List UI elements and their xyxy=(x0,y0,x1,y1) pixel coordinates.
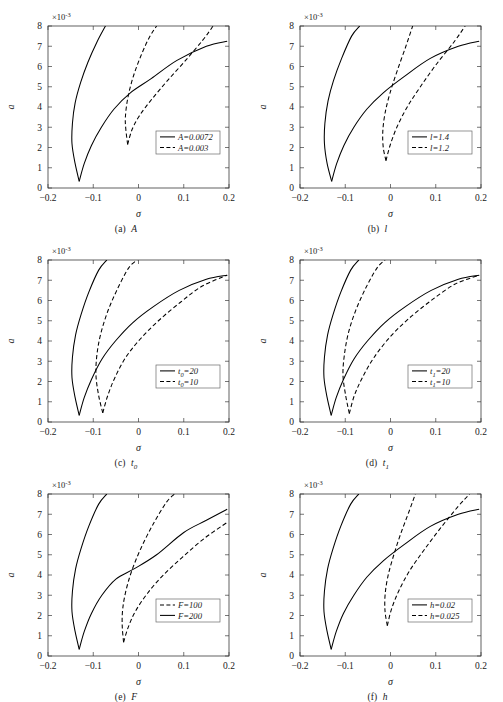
x-tick-label: −0.1 xyxy=(337,661,354,671)
y-tick-label: 7 xyxy=(289,42,294,52)
y-tick-label: 2 xyxy=(289,377,294,387)
curve-t1-20 xyxy=(331,275,479,415)
y-tick-label: 2 xyxy=(37,611,42,621)
x-tick-label: 0.2 xyxy=(223,427,235,437)
y-tick-label: 6 xyxy=(37,62,42,72)
legend-label: l=1.4 xyxy=(430,132,450,142)
y-axis-exponent: ×10-3 xyxy=(52,245,71,256)
x-tick-label: 0 xyxy=(136,661,141,671)
x-tick-label: 0.2 xyxy=(475,661,487,671)
x-tick-label: −0.2 xyxy=(39,427,56,437)
y-axis-label: a xyxy=(5,105,16,110)
legend-label: l=1.2 xyxy=(430,143,450,153)
y-tick-label: 5 xyxy=(37,550,42,560)
x-tick-label: 0 xyxy=(136,193,141,203)
curve-t1-10 xyxy=(349,275,479,413)
caption-symbol: t0 xyxy=(131,458,138,468)
panel-caption-f: (f) h xyxy=(252,692,503,702)
y-axis-label: a xyxy=(257,573,268,578)
plot-b: ×10-3012345678−0.2−0.100.10.2σal=1.4l=1.… xyxy=(252,0,503,234)
chart-panel-b: ×10-3012345678−0.2−0.100.10.2σal=1.4l=1.… xyxy=(252,0,503,234)
x-tick-label: −0.2 xyxy=(291,193,308,203)
y-axis-label: a xyxy=(257,105,268,110)
y-tick-label: 6 xyxy=(37,530,42,540)
y-tick-label: 0 xyxy=(37,651,42,661)
plot-c: ×10-3012345678−0.2−0.100.10.2σat0=20t0=1… xyxy=(0,234,252,468)
y-axis-exponent: ×10-3 xyxy=(304,11,323,22)
x-axis-label: σ xyxy=(136,442,142,453)
y-axis-exponent: ×10-3 xyxy=(52,479,71,490)
x-tick-label: 0 xyxy=(136,427,141,437)
y-tick-label: 3 xyxy=(37,123,42,133)
x-tick-label: 0 xyxy=(388,193,393,203)
y-tick-label: 0 xyxy=(289,417,294,427)
y-tick-label: 8 xyxy=(289,489,294,499)
curve-h-0-02 xyxy=(324,494,359,649)
curve-l-1-4 xyxy=(332,41,480,181)
x-tick-label: 0.2 xyxy=(475,193,487,203)
caption-index: (f) xyxy=(367,692,377,702)
y-axis-exponent: ×10-3 xyxy=(52,11,71,22)
x-tick-label: −0.2 xyxy=(39,193,56,203)
panel-caption-b: (b) l xyxy=(252,224,503,234)
y-tick-label: 3 xyxy=(289,357,294,367)
x-tick-label: −0.1 xyxy=(337,427,354,437)
y-tick-label: 7 xyxy=(37,276,42,286)
caption-symbol: l xyxy=(385,224,388,234)
curve-F-200 xyxy=(79,509,227,649)
caption-index: (a) xyxy=(115,224,126,234)
caption-index: (c) xyxy=(115,458,126,468)
y-tick-label: 3 xyxy=(37,591,42,601)
chart-panel-f: ×10-3012345678−0.2−0.100.10.2σah=0.02h=0… xyxy=(252,468,503,702)
x-tick-label: −0.2 xyxy=(291,427,308,437)
x-tick-label: 0.1 xyxy=(430,661,442,671)
chart-panel-c: ×10-3012345678−0.2−0.100.10.2σat0=20t0=1… xyxy=(0,234,252,468)
caption-index: (b) xyxy=(368,224,380,234)
legend-label: h=0.025 xyxy=(430,611,460,621)
legend-label: h=0.02 xyxy=(430,600,456,610)
y-tick-label: 8 xyxy=(289,21,294,31)
x-axis-label: σ xyxy=(388,208,394,219)
y-tick-label: 2 xyxy=(37,377,42,387)
y-axis-label: a xyxy=(5,573,16,578)
figure-panel-grid: ×10-3012345678−0.2−0.100.10.2σaA=0.0072A… xyxy=(0,0,503,702)
curve-A-0-0072 xyxy=(72,26,106,181)
y-tick-label: 8 xyxy=(37,255,42,265)
y-tick-label: 7 xyxy=(37,42,42,52)
x-tick-label: −0.1 xyxy=(85,427,102,437)
x-tick-label: −0.2 xyxy=(291,661,308,671)
curve-t1-20 xyxy=(324,260,359,415)
chart-panel-a: ×10-3012345678−0.2−0.100.10.2σaA=0.0072A… xyxy=(0,0,252,234)
y-tick-label: 8 xyxy=(289,255,294,265)
plot-f: ×10-3012345678−0.2−0.100.10.2σah=0.02h=0… xyxy=(252,468,503,702)
x-axis-label: σ xyxy=(388,442,394,453)
x-tick-label: 0 xyxy=(388,427,393,437)
y-tick-label: 1 xyxy=(37,397,42,407)
caption-index: (d) xyxy=(366,458,378,468)
x-tick-label: 0.1 xyxy=(178,427,190,437)
x-axis-label: σ xyxy=(136,208,142,219)
y-tick-label: 5 xyxy=(289,550,294,560)
y-tick-label: 5 xyxy=(37,82,42,92)
curve-A-0-0072 xyxy=(79,41,227,181)
y-tick-label: 1 xyxy=(289,163,294,173)
y-tick-label: 0 xyxy=(37,417,42,427)
x-axis-label: σ xyxy=(388,676,394,687)
y-axis-exponent: ×10-3 xyxy=(304,245,323,256)
plot-a: ×10-3012345678−0.2−0.100.10.2σaA=0.0072A… xyxy=(0,0,252,234)
caption-symbol: F xyxy=(131,692,137,702)
y-tick-label: 4 xyxy=(289,570,294,580)
x-tick-label: 0.2 xyxy=(223,661,235,671)
curve-l-1-4 xyxy=(324,26,359,181)
y-tick-label: 4 xyxy=(37,102,42,112)
panel-caption-a: (a) A xyxy=(0,224,252,234)
x-tick-label: 0.1 xyxy=(430,427,442,437)
panel-caption-e: (e) F xyxy=(0,692,252,702)
y-tick-label: 3 xyxy=(289,591,294,601)
curve-t0-20 xyxy=(72,260,107,415)
y-tick-label: 4 xyxy=(289,102,294,112)
y-tick-label: 2 xyxy=(37,143,42,153)
y-tick-label: 3 xyxy=(37,357,42,367)
y-tick-label: 7 xyxy=(289,276,294,286)
y-tick-label: 1 xyxy=(289,631,294,641)
